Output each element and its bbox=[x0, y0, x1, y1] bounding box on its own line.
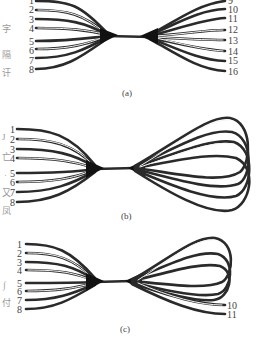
margin-glyph: ∫ bbox=[2, 280, 7, 291]
panel-c: 1 2 3 4 5 6 7 8 bbox=[17, 238, 237, 334]
left-labels-c: 1 2 3 4 5 6 7 8 bbox=[17, 239, 22, 315]
right-labels-a: 9 10 11 12 13 14 15 16 bbox=[228, 0, 238, 77]
fiber-label: 8 bbox=[17, 304, 22, 315]
fiber-bundle-figure: 字 隔 讦 J 亡 · 又 凤 ∫ 付 1 2 3 4 5 6 7 8 bbox=[0, 0, 261, 343]
margin-glyph: 讦 bbox=[2, 68, 11, 78]
fiber-label: 13 bbox=[228, 35, 238, 46]
fibers-a bbox=[36, 1, 225, 71]
fibers-c bbox=[26, 238, 231, 314]
bundle-knot bbox=[86, 273, 104, 291]
bundle-knot bbox=[86, 160, 104, 178]
left-labels-b: 1 2 3 4 5 6 7 8 bbox=[10, 124, 15, 208]
left-labels-a: 1 2 3 4 5 6 7 8 bbox=[29, 0, 34, 75]
margin-glyph: J bbox=[2, 132, 6, 142]
right-labels-c: 10 11 bbox=[227, 300, 237, 320]
fiber-label: 11 bbox=[227, 309, 237, 320]
caption-a: (a) bbox=[122, 88, 132, 98]
panel-a: 1 2 3 4 5 6 7 8 bbox=[29, 0, 238, 98]
fibers-b bbox=[17, 118, 249, 211]
bundle-knot bbox=[100, 28, 118, 44]
panel-b: 1 2 3 4 5 6 7 8 bbox=[10, 118, 249, 221]
bundle-knot bbox=[140, 28, 158, 44]
margin-fragments: 字 隔 讦 J 亡 · 又 凤 ∫ 付 bbox=[2, 23, 11, 308]
fiber-label: 4 bbox=[17, 265, 22, 276]
fiber-label: 4 bbox=[29, 23, 34, 34]
margin-glyph: 字 bbox=[2, 23, 11, 34]
caption-b: (b) bbox=[121, 211, 132, 221]
fiber-label: 16 bbox=[228, 66, 238, 77]
fiber-label: 15 bbox=[228, 55, 238, 66]
fiber-label: 4 bbox=[10, 153, 15, 164]
margin-glyph: · bbox=[4, 170, 7, 180]
fiber-label: 8 bbox=[10, 197, 15, 208]
margin-glyph: 付 bbox=[2, 298, 11, 308]
fiber-label: 11 bbox=[228, 13, 238, 24]
margin-glyph: 隔 bbox=[2, 50, 11, 60]
fiber-label: 8 bbox=[29, 64, 34, 75]
caption-c: (c) bbox=[120, 324, 130, 334]
fiber-label: 12 bbox=[228, 24, 238, 35]
